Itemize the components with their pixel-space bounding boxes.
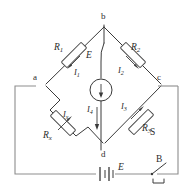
- galvanometer-label: E: [86, 51, 92, 61]
- current-label-i4-sub: 4: [90, 109, 93, 115]
- resistor-label-rx-sub: x: [49, 134, 52, 141]
- circuit-schematic-svg: [0, 0, 196, 189]
- node-label-d: d: [101, 150, 106, 159]
- shunt-label: S: [150, 128, 155, 138]
- battery-label: E: [118, 163, 124, 173]
- resistor-label-r2: R2: [131, 43, 140, 54]
- switch-symbol[interactable]: [151, 163, 166, 183]
- current-label-i2: I2: [118, 66, 124, 76]
- node-label-c: c: [157, 73, 161, 82]
- current-label-i3: I3: [121, 102, 127, 112]
- node-label-a: a: [33, 73, 37, 82]
- current-label-ix-sub: x: [66, 114, 69, 120]
- branch-b-d-galvanometer: [90, 25, 112, 150]
- switch-label: B: [156, 155, 162, 165]
- resistor-label-r1: R1: [54, 43, 63, 54]
- current-label-i2-sub: 2: [121, 70, 124, 76]
- current-label-ix: Ix: [63, 110, 69, 120]
- resistor-r1: [61, 42, 86, 67]
- node-label-b: b: [101, 12, 106, 21]
- current-label-i1-sub: 1: [77, 72, 80, 78]
- battery-symbol: [100, 167, 113, 181]
- resistor-label-r2-sub: 2: [137, 46, 140, 53]
- resistor-label-r1-sub: 1: [60, 46, 63, 53]
- current-label-i4: I4: [87, 105, 93, 115]
- current-arrow-i4: [95, 107, 99, 130]
- resistor-label-rx: Rx: [43, 131, 52, 142]
- current-label-i1: I1: [74, 68, 80, 78]
- current-label-i3-sub: 3: [124, 106, 127, 112]
- circuit-diagram-figure: b a c d R1 I1 R2 I2 Rx Ix R3 I3 E I4 E B…: [0, 0, 196, 189]
